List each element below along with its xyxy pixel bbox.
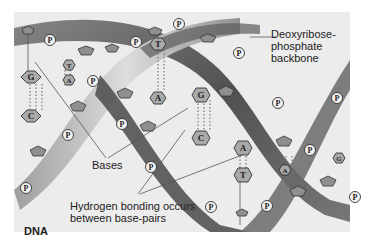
svg-text:P: P [24, 184, 29, 193]
svg-text:A: A [155, 93, 162, 103]
svg-text:P: P [335, 94, 340, 103]
svg-text:T: T [240, 170, 246, 180]
svg-text:G: G [197, 90, 204, 100]
svg-text:G: G [27, 72, 34, 82]
svg-text:P: P [265, 202, 270, 211]
hydrogen-bonding-label: Hydrogen bonding occurs between base-pai… [70, 200, 210, 224]
svg-text:T: T [67, 62, 72, 70]
svg-text:A: A [240, 143, 247, 153]
svg-text:P: P [308, 146, 313, 155]
svg-text:P: P [134, 38, 139, 47]
svg-text:A: A [282, 167, 287, 175]
svg-text:C: C [198, 133, 205, 143]
svg-text:P: P [66, 131, 71, 140]
svg-text:P: P [177, 20, 182, 29]
backbone-label: Deoxyribose-phosphate backbone [271, 28, 351, 64]
svg-text:A: A [66, 77, 71, 85]
diagram-title: DNA [24, 225, 48, 237]
svg-text:T: T [155, 39, 161, 49]
svg-text:P: P [149, 163, 154, 172]
svg-text:P: P [353, 193, 358, 202]
svg-text:G: G [336, 155, 342, 163]
svg-text:P: P [120, 120, 125, 129]
bases-label: Bases [92, 159, 123, 171]
svg-text:P: P [48, 36, 53, 45]
svg-text:C: C [28, 111, 35, 121]
svg-text:P: P [237, 49, 242, 58]
svg-text:P: P [276, 99, 281, 108]
svg-text:P: P [91, 77, 96, 86]
